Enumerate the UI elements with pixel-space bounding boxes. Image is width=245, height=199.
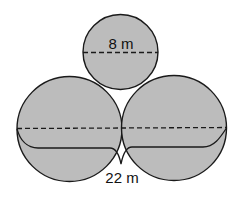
circle-left <box>17 77 122 182</box>
diagram-canvas: 8 m 22 m <box>0 0 245 199</box>
bottom-width-label: 22 m <box>105 169 138 186</box>
top-circle-label: 8 m <box>108 35 133 52</box>
